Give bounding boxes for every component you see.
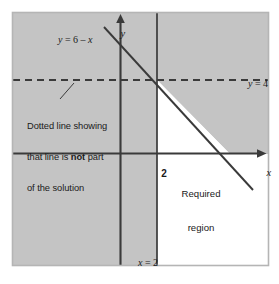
label-line-y-equals-6-minus-x: y = 6 – x bbox=[48, 22, 93, 57]
callout-line-3: of the solution bbox=[27, 183, 129, 193]
required-region-label-line-1: Required bbox=[170, 188, 232, 199]
label-vertical-eq: = bbox=[142, 257, 153, 268]
required-region-label-line-2: region bbox=[170, 222, 232, 233]
x-axis-tick-label-2: 2 bbox=[150, 156, 167, 191]
required-region-label: Required region bbox=[170, 166, 232, 256]
x-axis-tick-label-2-text: 2 bbox=[161, 168, 167, 179]
callout-line-2-b: part bbox=[85, 152, 103, 162]
callout-line-2: that line is not part bbox=[27, 152, 129, 162]
axis-label-y-text: y bbox=[121, 28, 126, 39]
label-diagonal-minus: – bbox=[78, 34, 88, 45]
axis-label-x: x bbox=[256, 155, 271, 192]
callout-emphasis-not: not bbox=[71, 152, 85, 162]
axis-label-x-text: x bbox=[267, 167, 272, 178]
label-vertical-rhs: 2 bbox=[153, 257, 158, 268]
label-horizontal-rhs: 4 bbox=[263, 78, 268, 89]
callout-line-1: Dotted line showing bbox=[27, 121, 129, 131]
axis-label-y: y bbox=[110, 16, 125, 53]
dotted-line-callout: Dotted line showing that line is not par… bbox=[27, 100, 129, 214]
label-horizontal-eq: = bbox=[252, 78, 263, 89]
callout-line-2-a: that line is bbox=[27, 152, 71, 162]
label-line-y-equals-4: y = 4 bbox=[238, 66, 268, 101]
label-diagonal-rhs-b: x bbox=[88, 34, 92, 45]
label-diagonal-eq: = bbox=[62, 34, 73, 45]
label-line-x-equals-2: x = 2 bbox=[128, 245, 158, 280]
inequality-region-figure: y = 6 – x y x y = 4 x = 2 2 Dotted line … bbox=[0, 0, 279, 284]
